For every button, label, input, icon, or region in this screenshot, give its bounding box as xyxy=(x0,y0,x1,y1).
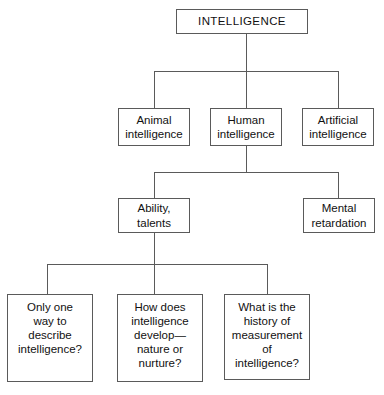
node-animal-intelligence: Animal intelligence xyxy=(118,108,190,146)
node-question-nature-or-nurture: How does intelligence develop— nature or… xyxy=(117,294,203,382)
connector-leg-question-two xyxy=(154,264,155,294)
connector-bus-level4 xyxy=(47,264,267,265)
node-human-intelligence: Human intelligence xyxy=(210,108,282,146)
node-intelligence: INTELLIGENCE xyxy=(176,9,308,34)
connector-human-stem xyxy=(246,146,247,173)
connector-leg-question-one xyxy=(47,264,48,294)
connector-leg-mental-retardation xyxy=(338,172,339,198)
connector-leg-question-three xyxy=(267,264,268,294)
concept-map-diagram: INTELLIGENCE Animal intelligence Human i… xyxy=(0,0,384,395)
node-question-history-of-measurement: What is the history of measurement of in… xyxy=(224,294,310,380)
connector-leg-human xyxy=(246,71,247,108)
connector-ability-stem xyxy=(154,233,155,265)
node-question-describe-intelligence: Only one way to describe intelligence? xyxy=(7,294,93,382)
connector-leg-ability xyxy=(154,172,155,198)
connector-root-stem xyxy=(246,34,247,72)
node-mental-retardation: Mental retardation xyxy=(303,198,375,233)
connector-leg-animal xyxy=(154,71,155,108)
connector-bus-level3 xyxy=(154,172,339,173)
node-artificial-intelligence: Artificial intelligence xyxy=(302,108,374,146)
node-ability-talents: Ability, talents xyxy=(118,198,190,233)
connector-leg-artificial xyxy=(338,71,339,108)
